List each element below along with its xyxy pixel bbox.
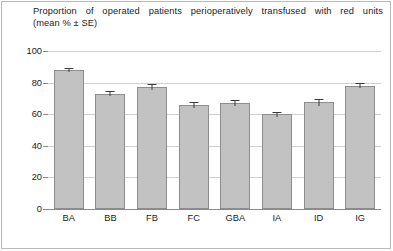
gridline-0: [48, 209, 381, 210]
bar-slot: [54, 51, 84, 209]
y-tick-100: [43, 51, 48, 52]
y-tick-label-100: 100: [12, 46, 42, 56]
x-tick-label-bb: BB: [104, 213, 116, 223]
chart-title: Proportion of operated patients perioper…: [33, 5, 383, 29]
plot-area: [48, 51, 381, 209]
bar-ia: [262, 114, 292, 209]
error-cap-fb-upper: [148, 84, 157, 85]
x-tick-label-ig: IG: [355, 213, 365, 223]
x-tick-label-id: ID: [314, 213, 323, 223]
bar-fc: [179, 105, 209, 209]
x-tick-label-ia: IA: [273, 213, 282, 223]
error-cap-bb-upper: [106, 91, 115, 92]
bar-slot: [137, 51, 167, 209]
error-cap-ia-upper: [272, 112, 281, 113]
bar-fb: [137, 87, 167, 209]
y-tick-label-80: 80: [12, 78, 42, 88]
y-tick-label-40: 40: [12, 141, 42, 151]
chart-figure: Proportion of operated patients perioper…: [0, 0, 393, 251]
bar-slot: [220, 51, 250, 209]
y-tick-label-0: 0: [12, 204, 42, 214]
error-cap-ig-upper: [356, 83, 365, 84]
error-cap-ba-upper: [64, 68, 73, 69]
bar-ba: [54, 70, 84, 209]
bar-gba: [220, 103, 250, 209]
y-tick-label-60: 60: [12, 109, 42, 119]
y-tick-20: [43, 177, 48, 178]
chart-title-line-2: (mean % ± SE): [33, 17, 383, 29]
bar-id: [304, 102, 334, 209]
bar-slot: [95, 51, 125, 209]
x-tick-label-gba: GBA: [225, 213, 245, 223]
x-tick-label-fb: FB: [146, 213, 158, 223]
chart-title-line-1: Proportion of operated patients perioper…: [33, 5, 383, 17]
bar-ig: [345, 86, 375, 209]
bar-slot: [262, 51, 292, 209]
error-cap-id-upper: [314, 99, 323, 100]
y-tick-60: [43, 114, 48, 115]
bar-slot: [345, 51, 375, 209]
y-tick-40: [43, 146, 48, 147]
error-cap-gba-upper: [231, 100, 240, 101]
y-tick-80: [43, 83, 48, 84]
bar-slot: [304, 51, 334, 209]
y-axis-labels: 020406080100: [11, 51, 42, 209]
x-axis-labels: BABBFBFCGBAIAIDIG: [48, 213, 381, 229]
x-tick-label-ba: BA: [63, 213, 75, 223]
y-tick-label-20: 20: [12, 172, 42, 182]
bar-slot: [179, 51, 209, 209]
y-tick-0: [43, 209, 48, 210]
error-cap-fc-upper: [189, 102, 198, 103]
bar-bb: [95, 94, 125, 209]
x-tick-label-fc: FC: [187, 213, 199, 223]
